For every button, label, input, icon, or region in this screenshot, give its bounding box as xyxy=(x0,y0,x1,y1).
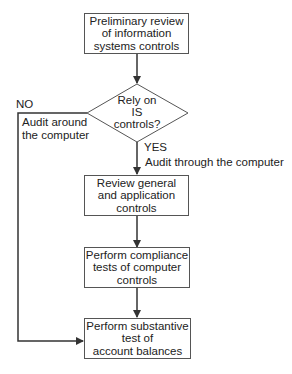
audit-around-label: Audit around the computer xyxy=(22,116,89,141)
yes-label: YES xyxy=(144,141,167,154)
substantive-test-box: Perform substantive test of account bala… xyxy=(84,318,191,359)
no-label: NO xyxy=(16,98,33,111)
decision-line: controls? xyxy=(107,118,167,130)
compliance-tests-box: Perform compliance tests of computer con… xyxy=(84,247,190,288)
box-line: controls xyxy=(97,202,176,215)
box-line: account balances xyxy=(86,345,188,358)
box-line: test of xyxy=(86,332,188,345)
preliminary-review-box: Preliminary review of information system… xyxy=(84,13,189,54)
label-line: Audit around xyxy=(22,116,89,129)
box-line: Preliminary review xyxy=(90,15,184,28)
label-line: the computer xyxy=(22,129,89,142)
box-line: controls xyxy=(86,274,188,287)
audit-through-label: Audit through the computer xyxy=(145,156,284,169)
decision-line: Rely on xyxy=(107,94,167,106)
decision-text: Rely on IS controls? xyxy=(107,94,167,130)
review-controls-box: Review general and application controls xyxy=(84,175,189,216)
box-line: of information xyxy=(90,27,184,40)
box-line: tests of computer xyxy=(86,261,188,274)
decision-line: IS xyxy=(107,106,167,118)
box-line: systems controls xyxy=(90,40,184,53)
box-line: and application xyxy=(97,189,176,202)
box-line: Perform compliance xyxy=(86,249,188,262)
box-line: Review general xyxy=(97,177,176,190)
box-line: Perform substantive xyxy=(86,320,188,333)
